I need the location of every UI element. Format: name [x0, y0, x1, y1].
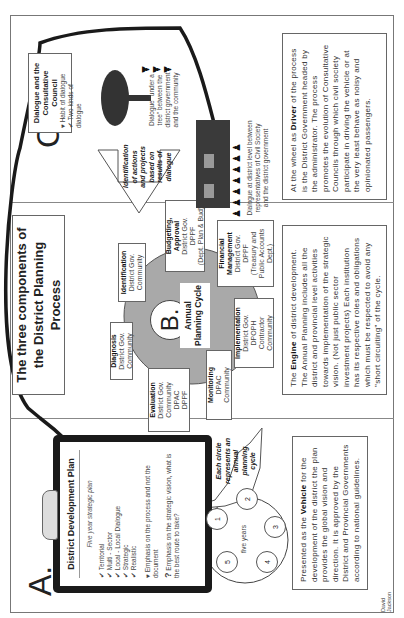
- stage-financial-management: Financial ManagementDistrict Gov.DPPF(Tr…: [217, 220, 274, 287]
- page-title: The three components of the District Pla…: [12, 215, 65, 395]
- year-circle-3: 3: [264, 516, 286, 538]
- annual-cycle-callout: Each circle represents an annual plannin…: [215, 438, 258, 484]
- dialogue-box-title: Dialogue and the Consultative Council: [32, 58, 59, 128]
- tree-dialogue-caption: Dialogue "under a tree" between the dist…: [148, 70, 180, 130]
- diagram-canvas: A. District Development Plan Five year s…: [0, 0, 404, 618]
- dialogue-council-box: Dialogue and the Consultative Council ♥ …: [28, 53, 72, 133]
- checklist-item: ✔ Multi - Sector: [106, 450, 114, 578]
- dialogue-item: ✔ Two kinds of dialogue: [67, 58, 83, 128]
- stage-implementation: ImplementationDistrict Gov.DPOPHContract…: [234, 298, 274, 368]
- engine-description: The Engine of district development. The …: [282, 225, 387, 395]
- year-label: five years: [240, 522, 248, 556]
- checklist-item: ✔ Local - Local Dialogue: [114, 450, 122, 578]
- clipboard-clip: [42, 490, 58, 540]
- stage-diagnosis: DiagnosisDistrict Gov.Community: [110, 322, 133, 380]
- dialogue-item: ♥ Habit of dialogue: [59, 58, 67, 128]
- question-note: ? Emphasis on the strategic vision, what…: [164, 450, 181, 578]
- heart-note: ♥ Emphasis on the process and not the do…: [144, 450, 160, 578]
- heart-icon: ♥: [144, 574, 151, 578]
- building-illustration: [196, 120, 230, 208]
- stage-evaluation: EvaluationDistrict Gov.CommunityDPACDPPF: [148, 368, 190, 432]
- checklist-item: ✔ Territorial: [98, 450, 106, 578]
- checklist-item: ✔ Realistic: [130, 450, 138, 578]
- stage-budgeting: Budgeting, ApprovalDistrict Gov.DPPF(Dep…: [165, 200, 205, 272]
- civil-society-people-icons: ♟♟♟♟♟♟♟: [232, 141, 242, 218]
- vehicle-description: Presented as the Vehicle for the develop…: [292, 436, 368, 590]
- year-circle-5: 5: [216, 551, 238, 573]
- stage-monitoring: MonitoringDPACCommunity: [206, 350, 232, 420]
- driver-description: At the wheel as Driver of the process is…: [282, 33, 387, 200]
- plan-subtitle: Five year strategic plan: [86, 450, 93, 578]
- building-dialogue-caption: Dialogue at district level between repre…: [246, 118, 270, 218]
- clipboard-paper: District Development Plan Five year stra…: [60, 442, 205, 586]
- cycle-center-label: Annual Planning Cycle: [180, 283, 210, 348]
- year-circle-4: 4: [256, 551, 278, 573]
- plan-checklist: ✔ Territorial ✔ Multi - Sector ✔ Local -…: [98, 450, 138, 578]
- check-icon: ✔: [67, 122, 74, 128]
- clipboard-title: District Development Plan: [66, 450, 80, 578]
- heart-icon: ♥: [59, 124, 66, 128]
- identification-arrow-note: Identification of actions and projects b…: [122, 146, 173, 188]
- checklist-item: ✔ Strategic: [122, 450, 130, 578]
- tree-illustration: [95, 68, 155, 128]
- question-icon: ?: [163, 573, 173, 579]
- author-credit: David Jackson: [380, 582, 392, 612]
- year-circle-2: 2: [236, 488, 258, 510]
- year-circle-1: 1: [206, 508, 228, 530]
- stage-identification: IdentificationDistrict Gov.Community: [118, 243, 146, 302]
